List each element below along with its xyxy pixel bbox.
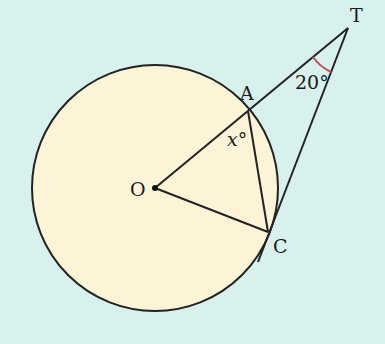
diagram-canvas: O A C T 20° x°: [0, 0, 385, 344]
label-A: A: [239, 82, 254, 104]
angle-x-degree: °: [238, 128, 248, 150]
label-angle-T: 20°: [295, 71, 329, 93]
label-T: T: [350, 4, 363, 26]
geometry-figure: O A C T 20° x°: [0, 0, 385, 344]
label-C: C: [273, 235, 288, 257]
angle-x-variable: x: [227, 128, 238, 150]
label-angle-x: x°: [227, 128, 247, 150]
center-dot: [152, 185, 158, 191]
label-O: O: [130, 178, 146, 200]
